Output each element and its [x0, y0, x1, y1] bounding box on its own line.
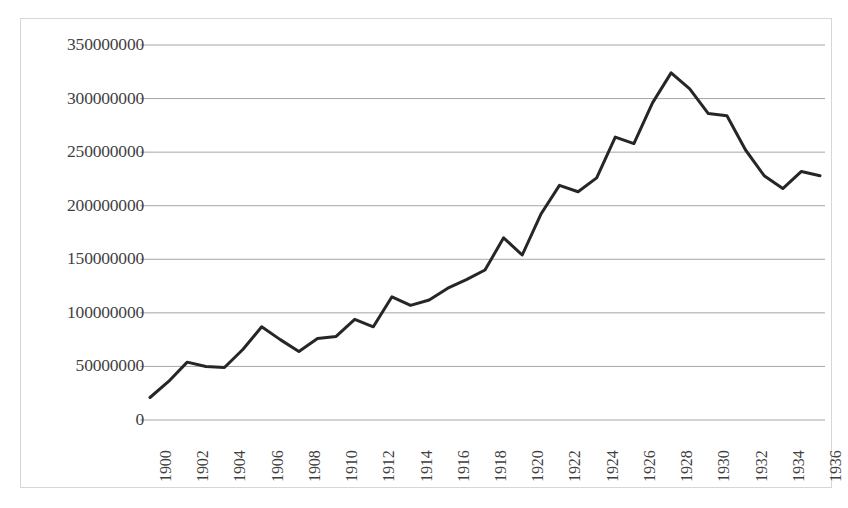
x-axis-tick-label: 1926: [642, 450, 658, 482]
x-axis-tick-label: 1918: [493, 450, 509, 482]
x-axis-tick-label: 1928: [679, 450, 695, 482]
x-axis-tick-label: 1906: [270, 450, 286, 482]
chart-x-axis-labels: 1900190219041906190819101912191419161918…: [0, 0, 848, 508]
x-axis-tick-label: 1936: [828, 450, 844, 482]
x-axis-tick-label: 1900: [158, 450, 174, 482]
x-axis-tick-label: 1908: [307, 450, 323, 482]
x-axis-tick-label: 1914: [419, 450, 435, 482]
x-axis-tick-label: 1912: [381, 450, 397, 482]
x-axis-tick-label: 1922: [567, 450, 583, 482]
x-axis-tick-label: 1930: [716, 450, 732, 482]
x-axis-tick-label: 1902: [195, 450, 211, 482]
x-axis-tick-label: 1934: [791, 450, 807, 482]
x-axis-tick-label: 1920: [530, 450, 546, 482]
x-axis-tick-label: 1932: [754, 450, 770, 482]
x-axis-tick-label: 1916: [456, 450, 472, 482]
chart-container: 0500000001000000001500000002000000002500…: [0, 0, 848, 508]
x-axis-tick-label: 1910: [344, 450, 360, 482]
x-axis-tick-label: 1904: [232, 450, 248, 482]
x-axis-tick-label: 1924: [605, 450, 621, 482]
